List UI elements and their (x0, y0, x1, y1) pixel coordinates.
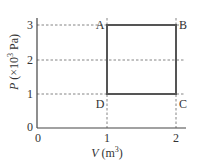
point-label-c: C (179, 97, 187, 111)
y-tick-3: 3 (27, 18, 33, 32)
point-label-a: A (96, 18, 105, 32)
x-axis-label: V (m3) (91, 145, 123, 160)
x-tick-2: 2 (173, 131, 179, 145)
point-label-d: D (96, 97, 105, 111)
x-tick-1: 1 (104, 131, 110, 145)
y-tick-2: 2 (27, 53, 33, 67)
cycle-abcd (107, 25, 176, 94)
reference-lines (37, 18, 185, 128)
x-tick-0: 0 (35, 131, 41, 145)
point-label-b: B (179, 18, 187, 32)
pv-diagram: 3 2 1 0 0 1 2 A B C D V (m3) P (×103 Pa) (0, 0, 197, 165)
y-tick-0: 0 (27, 120, 33, 134)
axes (37, 18, 186, 128)
y-axis-label: P (×103 Pa) (6, 34, 21, 91)
y-tick-1: 1 (27, 87, 33, 101)
